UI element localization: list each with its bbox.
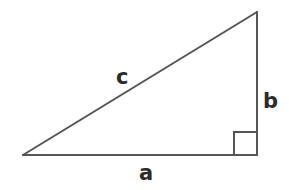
label-hypotenuse: c <box>116 65 128 89</box>
right-angle-marker <box>234 132 257 155</box>
hypotenuse-c <box>23 12 257 155</box>
triangle <box>23 12 257 155</box>
label-vertical-leg: b <box>263 89 278 113</box>
right-triangle-diagram: c b a <box>0 0 289 190</box>
label-horizontal-leg: a <box>139 161 153 185</box>
